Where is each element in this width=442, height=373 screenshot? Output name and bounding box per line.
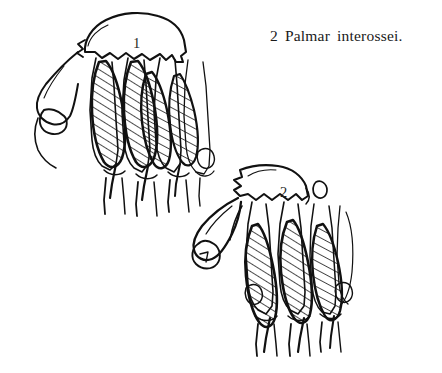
caption: 2Palmarinterossei. <box>270 27 403 45</box>
fig2-thumb-metacarpal <box>193 198 241 260</box>
fig1-carpal-notch <box>77 40 85 57</box>
fig2-phalanx-3b <box>307 324 310 356</box>
figure-2-label: 2 <box>280 184 287 201</box>
fig2-phalanx-3 <box>289 324 291 356</box>
fig2-carpal-inner <box>248 170 276 176</box>
fig2-phalanx-2 <box>256 324 258 356</box>
fig1-phalanx-4 <box>168 180 170 212</box>
fig1-carpal-lower-edge <box>35 118 56 168</box>
fig2-interosseous-belly-2 <box>280 220 311 323</box>
caption-word-interossei: interossei. <box>337 27 402 44</box>
fig1-interosseous-belly-4 <box>169 74 198 165</box>
figure-1-artwork <box>0 0 442 373</box>
fig1-thumb-metacarpal <box>37 52 78 125</box>
fig2-interosseous-belly-1 <box>245 224 276 327</box>
caption-word-palmar: Palmar <box>285 27 330 44</box>
fig2-pisiform <box>313 181 327 198</box>
figure-1-label: 1 <box>133 35 140 52</box>
fig1-phalanx-2 <box>104 178 106 214</box>
fig2-phalanx-2b <box>274 324 277 356</box>
fig1-interosseous-belly-1 <box>92 61 125 167</box>
fig1-phalanx-5 <box>199 178 200 206</box>
fig1-trapezium <box>40 109 67 134</box>
caption-number: 2 <box>270 27 278 44</box>
fig1-phalanx-2b <box>122 178 125 214</box>
fig1-phalanx-3b <box>154 182 157 216</box>
fig2-carpal-dome <box>234 165 308 200</box>
fig1-metacarpal5-head-detail <box>197 149 214 169</box>
fig1-carpal-inner-line <box>88 25 108 46</box>
illustration-page: 1 2 2Palmarinterossei. <box>0 0 442 373</box>
figure-1-group <box>35 13 353 356</box>
fig1-phalanx-4b <box>186 180 189 212</box>
fig2-phalanx-4b <box>338 322 341 352</box>
fig2-phalanx-4 <box>320 322 322 352</box>
fig1-phalanx-3 <box>136 182 138 216</box>
